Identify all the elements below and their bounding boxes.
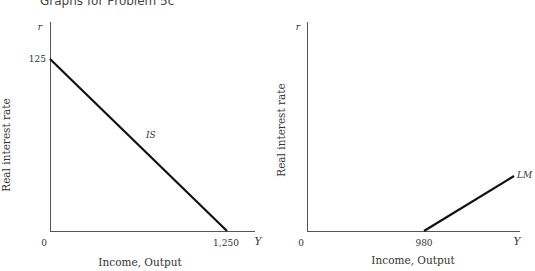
right-y-axis-title: Real interest rate [275,83,287,177]
lm-chart: r 0 980 Y LM Income, Output Real interes… [275,22,533,266]
right-x-symbol: Y [514,235,522,247]
left-x-tick-1250: 1,250 [213,238,239,248]
left-origin-label: 0 [41,238,47,248]
left-y-axis-title: Real interest rate [0,98,12,192]
lm-curve [424,176,514,231]
is-chart: r 125 0 1,250 Y IS Income, Output Real i… [0,22,263,268]
right-y-symbol: r [296,22,301,32]
left-y-tick-125: 125 [29,54,46,64]
left-x-symbol: Y [255,235,263,247]
right-origin-label: 0 [298,238,304,248]
right-x-axis-title: Income, Output [371,254,455,266]
charts-canvas: r 125 0 1,250 Y IS Income, Output Real i… [0,0,535,271]
lm-curve-label: LM [516,170,533,180]
left-y-symbol: r [38,22,43,32]
is-curve-label: IS [145,130,156,140]
is-curve [50,59,227,231]
right-x-tick-980: 980 [415,238,432,248]
left-x-axis-title: Income, Output [98,256,182,268]
